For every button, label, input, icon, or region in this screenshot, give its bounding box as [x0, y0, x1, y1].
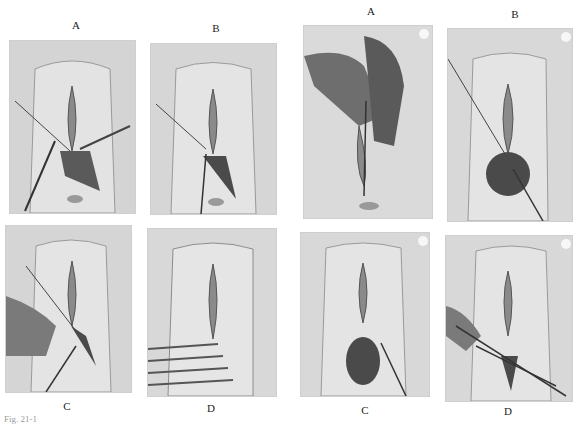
illustration-left-d [147, 228, 277, 397]
illustration-right-b [447, 28, 573, 222]
illustration-left-a [9, 40, 136, 214]
panel-label-right-b: B [495, 8, 535, 20]
illustration-left-b [150, 43, 277, 215]
panel-label-left-a: A [56, 19, 96, 31]
surgical-illustration-icon [446, 236, 572, 401]
surgical-illustration-icon [448, 29, 572, 221]
panel-label-right-c: C [345, 404, 385, 416]
illustration-right-a [303, 25, 433, 219]
illustration-right-c [300, 232, 430, 397]
surgical-illustration-icon [304, 26, 432, 218]
panel-label-right-d: D [488, 405, 528, 417]
panel-label-left-b: B [196, 22, 236, 34]
surgical-illustration-icon [10, 41, 135, 213]
surgical-illustration-icon [6, 226, 131, 392]
illustration-right-d [445, 235, 573, 402]
surgical-illustration-icon [151, 44, 276, 214]
panel-label-left-c: C [47, 400, 87, 412]
surgical-illustration-icon [148, 229, 276, 396]
surgical-illustration-icon [301, 233, 429, 396]
illustration-left-c [5, 225, 132, 393]
panel-label-left-d: D [191, 402, 231, 414]
panel-label-right-a: A [351, 5, 391, 17]
figure-caption: Fig. 21-1 [4, 414, 37, 424]
